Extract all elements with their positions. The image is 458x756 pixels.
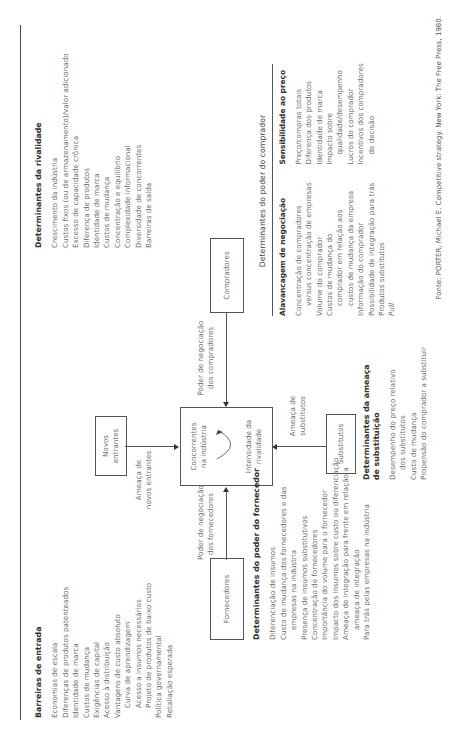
list-item: Diversidade de concorrentes [134,53,144,248]
arrow-left-icon [223,402,229,407]
buyers-label: Compradores [222,251,232,299]
list-item: Acesso a insumos necessários [134,583,144,718]
list-item: Crescimento da indústria [50,53,60,248]
suppliers-arrow-label: Poder de negociação dos fornecedores [196,488,216,560]
supplier-determinants-block: Determinantes do poder do fornecedor Dif… [252,458,372,640]
list-item: Possibilidade de integração para trás [367,183,377,316]
list-item: Exigências de capital [92,583,102,718]
new-entrants-box: Novos entrantes [95,416,127,476]
substitution-determinants-title: Determinantes da ameaça de substituição [362,347,383,480]
list-item: Lucros do comprador [346,63,356,164]
entry-barriers-block: Barreiras de entrada Economias de escala… [34,583,175,718]
suppliers-label: Fornecedores [222,575,232,623]
source-citation: Fonte: PORTER, Michael E. Competitive st… [435,16,443,446]
buyers-arrow-label: Poder de negociação dos compradores [196,318,216,398]
competitors-label: Concorrentes na indústria [189,408,209,485]
new-entrants-label-2: entrantes [111,429,121,464]
list-item: Diferenças de produtos patenteados [61,583,71,718]
list-item: Barreiras de saída [144,53,154,248]
list-item: Retaliação esperada [165,583,175,718]
suppliers-box: Fornecedores [210,558,244,640]
rivalry-determinants-block: Determinantes da rivalidade Crescimento … [34,53,154,248]
buyers-connector [226,313,227,402]
substitutes-connector [277,446,326,447]
buyer-determinants-title: Determinantes do poder do comprador [258,66,268,316]
list-item: Informação do comprador [356,183,366,316]
rivalry-determinants-title: Determinantes da rivalidade [34,53,44,248]
list-item: dos substitutos [398,347,408,480]
list-item: Custos de mudança [102,53,112,248]
list-item: Custos fixos (ou de armazenamento)/valor… [61,53,71,248]
list-item: Impacto dos insumos sobre custo ou difer… [331,458,341,640]
price-sensitivity-column: Sensibilidade ao preço Preço/compras tot… [278,63,397,164]
list-item: Acesso à distribuição [102,583,112,718]
list-item: custos de mudança da empresa [346,183,356,316]
list-item: de decisão [367,63,377,164]
list-item: Volume do comprador [315,183,325,316]
list-item: Concentração de fornecedores [310,458,320,640]
list-item: Concentração de compradores [294,183,304,316]
list-item: Custos de mudança do [325,183,335,316]
top-rule [20,25,21,720]
list-item: Ameaça de integração para frente em rela… [341,458,351,640]
list-item: Desempenho do preço relativo [388,347,398,480]
list-item: Concentração e equilíbrio [113,53,123,248]
buyer-determinants-columns: Alavancagem de negociação Concentração d… [278,63,397,316]
list-item: Diferença de produtos [82,53,92,248]
bargaining-leverage-title: Alavancagem de negociação [278,183,288,316]
list-item: Identidade de marca [92,53,102,248]
porter-five-forces-page: Barreiras de entrada Economias de escala… [0,0,458,756]
entry-barriers-title: Barreiras de entrada [34,583,44,718]
list-item: Para trás pelas empresas na indústria [362,458,372,640]
list-item: Vantagens de custo absoluto [113,583,123,718]
arrow-down-icon [174,444,179,450]
list-item: qualidade/desempenho [335,63,345,164]
bargaining-leverage-column: Alavancagem de negociação Concentração d… [278,183,397,316]
suppliers-connector [226,492,227,560]
list-item: Excesso de capacidade crônica [71,53,81,248]
list-item: Incentivos dos compradores [356,63,366,164]
buyers-box: Compradores [210,238,244,313]
list-item: Produtos substitutos [377,183,387,316]
substitutes-arrow-label: Ameaça de substitutos [288,391,308,441]
list-item: Projeto de produtos de baixo custo [144,583,154,718]
list-item: Curva de aprendizagem [123,583,133,718]
price-sensitivity-title: Sensibilidade ao preço [278,63,288,164]
list-item: versus concentração de empresas [304,183,314,316]
rivalry-cycle-arrow-icon [213,425,239,465]
list-item: comprador em relação aos [335,183,345,316]
list-item: Economias de escala [50,583,60,718]
list-item: Diferença dos produtos [304,63,314,164]
list-item: Custo de mudança dos fornecedores e das [279,458,289,640]
list-item: Custo de mudança [409,347,419,480]
list-item: Importância do volume para o fornecedor [320,458,330,640]
substitution-determinants-block: Determinantes da ameaça de substituição … [362,347,429,480]
list-item: Pull [387,183,397,316]
list-item: Impacto sobre [325,63,335,164]
list-item: Identidade de marca [315,63,325,164]
supplier-determinants-title: Determinantes do poder do fornecedor [252,458,262,640]
new-entrants-label-1: Novos [101,435,111,457]
list-item: Custos de mudança [82,583,92,718]
list-item: Identidade de marca [71,583,81,718]
list-item: Diferenciação de insumos [268,458,278,640]
list-item: empresas na indústria [289,458,299,640]
arrow-right-icon [223,487,229,492]
buyer-determinants-block: Determinantes do poder do comprador Alav… [258,63,398,316]
arrow-up-icon [272,444,277,450]
buyer-determinants-rule [272,64,273,316]
list-item: Propensão do comprador a substituir [419,347,429,480]
new-entrants-connector [125,446,175,447]
list-item: Complexidade informacional [123,53,133,248]
new-entrants-arrow-label: Ameaça de novos entrantes [134,450,154,510]
list-item: ameaça de integração [352,458,362,640]
list-item: Política governamental [154,583,164,718]
list-item: Preço/compras totais [294,63,304,164]
list-item: Presença de insumos substitutivos [300,458,310,640]
